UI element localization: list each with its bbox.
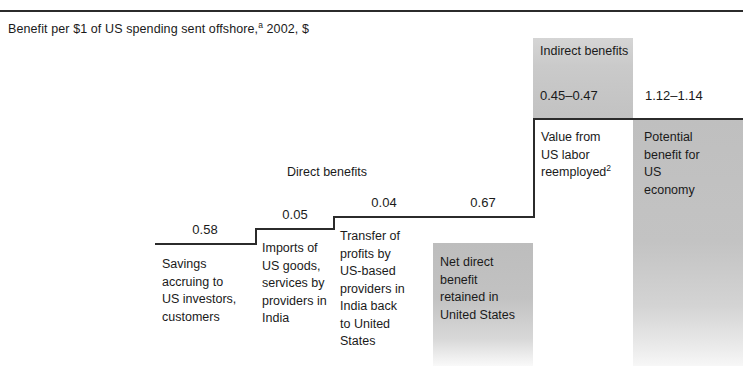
- value-label-transfer-profits: 0.04: [335, 195, 433, 210]
- chart-title: Benefit per $1 of US spending sent offsh…: [8, 22, 309, 36]
- description-transfer-profits-line-2: profits by: [340, 246, 436, 264]
- step-riser-imports: [255, 228, 257, 245]
- description-net-direct-benefit-line-3: retained in: [440, 289, 536, 307]
- chart-title-text: Benefit per $1 of US spending sent offsh…: [8, 22, 258, 36]
- description-imports-line-2: US goods,: [262, 258, 352, 276]
- step-line-savings-top: [155, 243, 257, 245]
- value-label-imports: 0.05: [255, 207, 335, 222]
- group-label-direct-benefits: Direct benefits: [222, 165, 432, 179]
- description-value-us-labor-line-2: US labor: [541, 147, 635, 165]
- description-value-us-labor-line-1: Value from: [541, 129, 635, 147]
- description-transfer-profits-line-5: India back: [340, 298, 436, 316]
- description-transfer-profits-line-6: to United: [340, 316, 436, 334]
- description-savings-line-4: customers: [162, 309, 258, 327]
- description-value-us-labor-line-3-text: reemployed: [541, 165, 606, 179]
- value-label-net-direct-benefit: 0.67: [433, 195, 533, 210]
- description-imports: Imports of US goods, services by provide…: [262, 240, 352, 328]
- description-potential-benefit-line-3: US: [644, 164, 740, 182]
- value-label-value-us-labor: 0.45–0.47: [540, 88, 630, 103]
- description-savings-line-2: accruing to: [162, 274, 258, 292]
- step-riser-indirect-benefits: [533, 118, 535, 218]
- description-potential-benefit-line-2: benefit for: [644, 147, 740, 165]
- description-potential-benefit-line-1: Potential: [644, 129, 740, 147]
- description-value-us-labor-line-3: reemployed2: [541, 164, 635, 182]
- description-net-direct-benefit: Net direct benefit retained in United St…: [440, 254, 536, 324]
- description-transfer-profits-line-3: US-based: [340, 263, 436, 281]
- description-imports-line-4: providers in: [262, 293, 352, 311]
- step-line-transfer-and-net-top: [333, 216, 535, 218]
- description-savings-line-1: Savings: [162, 256, 258, 274]
- value-label-potential-benefit: 1.12–1.14: [645, 88, 743, 103]
- description-potential-benefit-line-4: economy: [644, 182, 740, 200]
- description-value-us-labor-footnote-marker: 2: [606, 163, 611, 173]
- description-transfer-profits-line-4: providers in: [340, 281, 436, 299]
- description-savings-line-3: US investors,: [162, 291, 258, 309]
- chart-title-suffix: 2002, $: [263, 22, 309, 36]
- group-label-indirect-benefits: Indirect benefits: [540, 44, 628, 58]
- description-transfer-profits: Transfer of profits by US-based provider…: [340, 228, 436, 351]
- description-transfer-profits-line-1: Transfer of: [340, 228, 436, 246]
- description-imports-line-1: Imports of: [262, 240, 352, 258]
- step-line-imports-top: [255, 228, 335, 230]
- description-imports-line-3: services by: [262, 275, 352, 293]
- description-potential-benefit: Potential benefit for US economy: [644, 129, 740, 199]
- description-value-us-labor: Value from US labor reemployed2: [541, 129, 635, 182]
- step-line-indirect-top: [533, 118, 743, 120]
- top-divider-rule: [0, 10, 743, 12]
- description-net-direct-benefit-line-4: United States: [440, 307, 536, 325]
- description-transfer-profits-line-7: States: [340, 333, 436, 351]
- value-label-savings: 0.58: [155, 222, 255, 237]
- description-imports-line-5: India: [262, 310, 352, 328]
- waterfall-chart: Benefit per $1 of US spending sent offsh…: [0, 0, 743, 366]
- description-net-direct-benefit-line-2: benefit: [440, 272, 536, 290]
- description-net-direct-benefit-line-1: Net direct: [440, 254, 536, 272]
- description-savings: Savings accruing to US investors, custom…: [162, 256, 258, 326]
